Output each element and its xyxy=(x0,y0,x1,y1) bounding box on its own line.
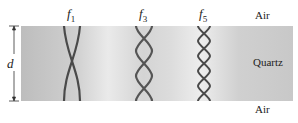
mode-f3-subscript: 3 xyxy=(143,14,148,24)
mode-f5-subscript: 5 xyxy=(203,14,208,24)
mode-f1-label: f1 xyxy=(67,7,75,24)
mode-f3-wave xyxy=(136,26,152,101)
mode-f3-label: f3 xyxy=(139,7,147,24)
mode-f1-subscript: 1 xyxy=(71,14,76,24)
mode-f1-wave xyxy=(64,26,80,101)
air-bottom-label: Air xyxy=(255,104,270,115)
thickness-label: d xyxy=(7,57,14,70)
mode-f5-wave xyxy=(198,26,210,101)
mode-f5-label: f5 xyxy=(199,7,207,24)
air-top-label: Air xyxy=(255,10,270,21)
quartz-label: Quartz xyxy=(253,57,283,68)
